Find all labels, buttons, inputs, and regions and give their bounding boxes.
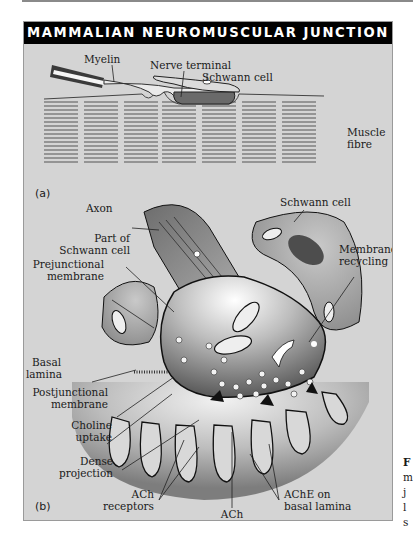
label-dense-projection-line2: projection bbox=[26, 467, 113, 479]
label-basal-lamina-line2: lamina bbox=[26, 368, 61, 380]
label-schwann-cell-a: Schwann cell bbox=[202, 71, 273, 83]
figure-frame: MAMMALIAN NEUROMUSCULAR JUNCTION bbox=[23, 21, 393, 521]
label-postjunctional-line1: Postjunctional bbox=[26, 386, 108, 398]
panel-b-tag: (b) bbox=[35, 500, 51, 513]
label-postjunctional-line2: membrane bbox=[26, 398, 108, 410]
caption-line: m bbox=[403, 470, 413, 485]
label-prejunctional-line2: membrane bbox=[26, 270, 104, 282]
panel-a-tag: (a) bbox=[35, 187, 50, 200]
label-ach: ACh bbox=[214, 508, 250, 520]
label-membrane-recycling-line2: recycling bbox=[339, 255, 388, 267]
label-membrane-recycling-line1: Membrane bbox=[339, 243, 393, 255]
label-nerve-terminal: Nerve terminal bbox=[150, 59, 231, 71]
label-part-of-schwann-line2: Schwann cell bbox=[34, 244, 130, 256]
label-ache-line2: basal lamina bbox=[284, 500, 351, 512]
page-top-rule bbox=[22, 0, 413, 2]
caption-line: j bbox=[403, 485, 413, 500]
label-choline-uptake-line2: uptake bbox=[26, 431, 112, 443]
label-axon: Axon bbox=[86, 202, 113, 214]
caption-line: s bbox=[403, 515, 413, 530]
caption-line: l bbox=[403, 500, 413, 515]
label-schwann-cell-b: Schwann cell bbox=[280, 196, 351, 208]
figure-caption-fragment: F m j l s bbox=[403, 455, 413, 530]
label-ach-receptors-line1: ACh bbox=[84, 488, 154, 500]
label-choline-uptake-line1: Choline bbox=[26, 419, 112, 431]
label-ache-line1: AChE on bbox=[284, 488, 330, 500]
label-dense-projection-line1: Dense bbox=[26, 455, 113, 467]
panel-a-drawing bbox=[44, 65, 324, 162]
caption-line: F bbox=[403, 455, 413, 470]
label-basal-lamina-line1: Basal bbox=[26, 356, 61, 368]
label-muscle-fibre-line2: fibre bbox=[347, 138, 372, 150]
label-muscle-fibre-line1: Muscle bbox=[347, 126, 385, 138]
label-myelin: Myelin bbox=[84, 53, 120, 65]
label-part-of-schwann-line1: Part of bbox=[54, 232, 130, 244]
label-ach-receptors-line2: receptors bbox=[84, 500, 154, 512]
label-prejunctional-line1: Prejunctional bbox=[26, 258, 104, 270]
